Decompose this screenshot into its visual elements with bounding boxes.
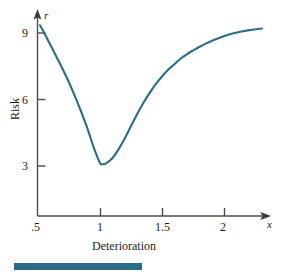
figure-container: 9 6 3 .5 1 1.5 2 r x Risk Deterioration xyxy=(0,0,281,279)
risk-deterioration-plot xyxy=(0,0,281,258)
y-axis-ticks xyxy=(38,33,46,166)
x-axis-ticks xyxy=(101,208,225,216)
x-tick-label-1point5: 1.5 xyxy=(155,221,170,233)
y-axis-title: Risk xyxy=(9,87,21,131)
bottom-rule-bar xyxy=(14,263,142,270)
y-tick-label-9: 9 xyxy=(22,27,28,39)
y-tick-label-3: 3 xyxy=(22,160,28,172)
x-axis xyxy=(38,212,272,220)
x-tick-label-point5: .5 xyxy=(31,221,40,233)
y-axis-variable-label: r xyxy=(44,10,48,21)
y-tick-label-6: 6 xyxy=(22,94,28,106)
x-axis-title: Deterioration xyxy=(92,240,156,252)
risk-curve-line xyxy=(40,25,262,164)
x-axis-variable-label: x xyxy=(267,219,272,230)
x-tick-label-2: 2 xyxy=(220,221,226,233)
y-axis xyxy=(34,9,42,216)
x-tick-label-1: 1 xyxy=(97,221,103,233)
